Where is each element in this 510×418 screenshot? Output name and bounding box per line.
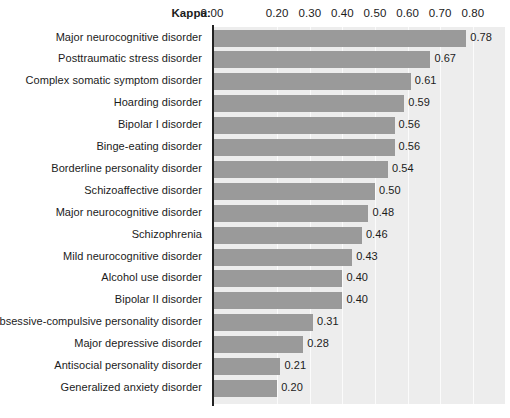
category-label: Posttraumatic stress disorder: [58, 52, 202, 64]
bar: [212, 380, 277, 397]
category-label: Schizoaffective disorder: [84, 184, 202, 196]
x-tick-label: 0.60: [396, 7, 419, 19]
gridline: [440, 27, 441, 404]
bar: [212, 183, 375, 200]
kappa-bar-chart: Kappa: 0.000.200.300.400.500.600.700.80 …: [0, 0, 510, 418]
bar: [212, 30, 466, 47]
bar-value-label: 0.40: [346, 293, 368, 305]
bar: [212, 249, 352, 266]
category-label: Bipolar II disorder: [115, 293, 202, 305]
bar-value-label: 0.67: [434, 52, 456, 64]
category-label: Bipolar I disorder: [118, 118, 202, 130]
category-label: Major neurocognitive disorder: [56, 31, 202, 43]
x-tick-label: 0.80: [461, 7, 484, 19]
chart-axis-header: Kappa: 0.000.200.300.400.500.600.700.80: [0, 0, 510, 27]
bar-value-label: 0.31: [317, 315, 339, 327]
category-label: Binge-eating disorder: [96, 140, 202, 152]
bar: [212, 73, 411, 90]
bar-value-label: 0.78: [470, 31, 492, 43]
bar: [212, 51, 430, 68]
bar-value-label: 0.61: [415, 74, 437, 86]
bar-value-label: 0.46: [366, 228, 388, 240]
x-tick-label: 0.20: [266, 7, 289, 19]
bar: [212, 292, 342, 309]
category-label: Schizophrenia: [132, 228, 202, 240]
bar: [212, 336, 303, 353]
category-label: Complex somatic symptom disorder: [26, 74, 202, 86]
category-label: Mild neurocognitive disorder: [63, 250, 202, 262]
bar-value-label: 0.59: [408, 96, 430, 108]
bar-value-label: 0.21: [284, 359, 306, 371]
category-label-column: Major neurocognitive disorderPosttraumat…: [0, 27, 208, 404]
bar: [212, 117, 395, 134]
plot-area: 0.780.670.610.590.560.560.540.500.480.46…: [212, 27, 505, 404]
bar-value-label: 0.54: [392, 162, 414, 174]
bar: [212, 205, 368, 222]
bar-value-label: 0.40: [346, 271, 368, 283]
bar: [212, 139, 395, 156]
bar-value-label: 0.56: [399, 118, 421, 130]
x-tick-label: 0.50: [364, 7, 387, 19]
category-label: Alcohol use disorder: [101, 271, 202, 283]
x-tick-label: 0.00: [201, 7, 224, 19]
bar-value-label: 0.50: [379, 184, 401, 196]
y-axis-line: [212, 25, 214, 406]
bar: [212, 358, 280, 375]
bar-value-label: 0.43: [356, 250, 378, 262]
category-label: Antisocial personality disorder: [54, 359, 202, 371]
gridline: [473, 27, 474, 404]
bar: [212, 227, 362, 244]
bar: [212, 314, 313, 331]
category-label: Obsessive-compulsive personality disorde…: [0, 315, 202, 327]
category-label: Hoarding disorder: [114, 96, 202, 108]
category-label: Generalized anxiety disorder: [61, 381, 202, 393]
category-label: Borderline personality disorder: [51, 162, 202, 174]
bar: [212, 270, 342, 287]
bar-value-label: 0.20: [281, 381, 303, 393]
bar-value-label: 0.28: [307, 337, 329, 349]
x-tick-label: 0.70: [429, 7, 452, 19]
bar: [212, 95, 404, 112]
category-label: Major depressive disorder: [74, 337, 202, 349]
bar: [212, 161, 388, 178]
x-tick-label: 0.40: [331, 7, 354, 19]
category-label: Major neurocognitive disorder: [56, 206, 202, 218]
bar-value-label: 0.56: [399, 140, 421, 152]
x-tick-label: 0.30: [298, 7, 321, 19]
bar-value-label: 0.48: [372, 206, 394, 218]
